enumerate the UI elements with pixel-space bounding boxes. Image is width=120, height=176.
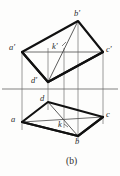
horizontal-edge-ab-heavy [22, 122, 78, 136]
label-b: b [75, 137, 79, 146]
label-d-prime: d' [31, 76, 37, 85]
label-b-prime: b' [74, 9, 80, 18]
descriptive-geometry-drawing [0, 0, 120, 176]
label-c: c [106, 110, 110, 119]
horizontal-edge-bc-heavy [78, 117, 103, 136]
frontal-k-leader [62, 42, 66, 46]
label-d: d [40, 94, 44, 103]
label-a: a [11, 115, 15, 124]
label-a-prime: a' [9, 43, 15, 52]
label-k-prime: k' [52, 42, 58, 51]
frontal-edge-dc-heavy [48, 52, 103, 82]
label-k: k [58, 120, 62, 129]
label-c-prime: c' [106, 45, 112, 54]
horizontal-chord-ac [22, 117, 103, 122]
figure-canvas: b' a' c' k' d' d a c k b (b) [0, 0, 120, 176]
figure-caption: (b) [66, 156, 77, 166]
